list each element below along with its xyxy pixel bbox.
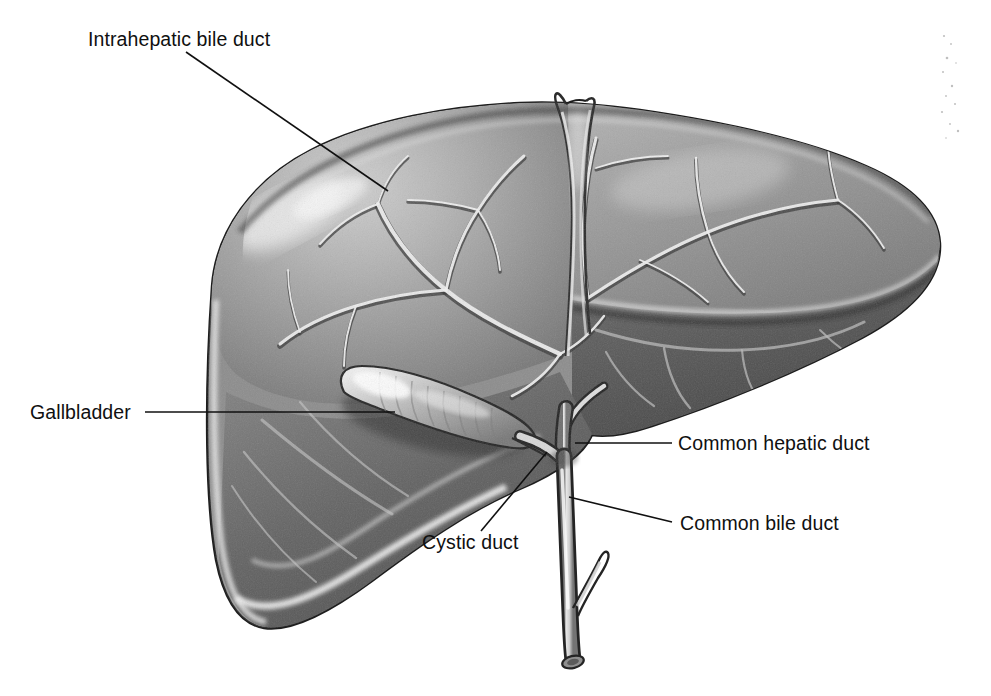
label-cystic-duct: Cystic duct [422, 533, 518, 553]
common-bile-duct-leader [569, 497, 672, 522]
label-gallbladder: Gallbladder [30, 403, 131, 423]
scan-speckles [941, 35, 959, 139]
liver-anatomy-figure: Intrahepatic bile duct Gallbladder Cysti… [0, 0, 991, 696]
label-common-bile-duct: Common bile duct [680, 514, 839, 534]
pancreatic-duct-stub-core [577, 562, 600, 606]
liver-illustration [0, 0, 991, 696]
label-common-hepatic-duct: Common hepatic duct [678, 434, 870, 454]
label-intrahepatic-bile-duct: Intrahepatic bile duct [88, 30, 270, 50]
